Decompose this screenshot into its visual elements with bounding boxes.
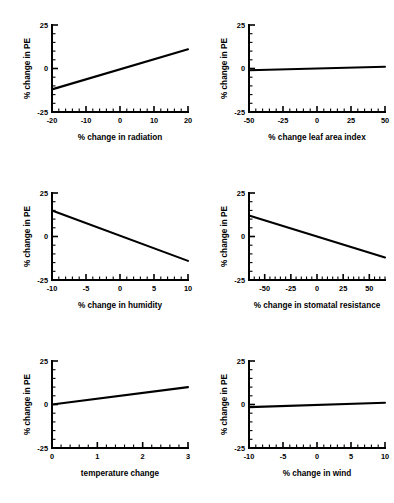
- y-tick-label: 25: [40, 189, 48, 198]
- y-axis-title: % change in PE: [220, 205, 229, 267]
- x-tick-label: 0: [118, 116, 122, 125]
- y-axis-title: % change in PE: [23, 37, 32, 99]
- y-tick-label: 0: [241, 400, 245, 409]
- x-tick-label: -5: [280, 452, 287, 461]
- x-tick-label: 0: [118, 284, 122, 293]
- y-tick-label: 0: [241, 232, 245, 241]
- x-tick-label: 5: [152, 284, 156, 293]
- chart-panel: -20-1001020-25025% change in radiation% …: [0, 0, 197, 168]
- x-tick-label: 0: [315, 116, 319, 125]
- data-series-line: [249, 67, 385, 70]
- sensitivity-figure: -20-1001020-25025% change in radiation% …: [0, 0, 394, 503]
- chart-panel: 0123-25025temperature change% change in …: [0, 336, 197, 503]
- x-tick-label: 5: [349, 452, 353, 461]
- y-tick-label: -25: [37, 108, 48, 117]
- chart-panel: -10-50510-25025% change in wind% change …: [197, 336, 394, 503]
- chart-panel: -50-2502550-25025% change leaf area inde…: [197, 0, 394, 168]
- y-tick-label: -25: [37, 444, 48, 453]
- y-tick-label: 0: [241, 64, 245, 73]
- x-tick-label: 0: [315, 284, 319, 293]
- y-tick-label: 25: [40, 21, 48, 30]
- x-tick-label: -10: [81, 116, 92, 125]
- y-tick-label: 25: [237, 21, 245, 30]
- data-series-line: [249, 216, 385, 258]
- x-tick-label: -5: [83, 284, 90, 293]
- x-axis-title: temperature change: [81, 469, 160, 478]
- y-tick-label: -25: [37, 276, 48, 285]
- x-tick-label: 25: [347, 116, 355, 125]
- axis-spine: [52, 361, 188, 448]
- y-tick-label: -25: [234, 276, 245, 285]
- x-tick-label: -10: [244, 452, 255, 461]
- chart-panel: -50-2502550-25025% change in stomatal re…: [197, 168, 394, 336]
- x-tick-label: -50: [244, 116, 255, 125]
- x-axis-title: % change leaf area index: [268, 133, 366, 142]
- x-tick-label: 0: [50, 452, 54, 461]
- y-tick-label: -25: [234, 108, 245, 117]
- x-tick-label: 50: [381, 116, 389, 125]
- y-axis-title: % change in PE: [23, 205, 32, 267]
- y-tick-label: 25: [237, 357, 245, 366]
- x-tick-label: 0: [315, 452, 319, 461]
- x-tick-label: -10: [47, 284, 58, 293]
- y-tick-label: 25: [237, 189, 245, 198]
- y-tick-label: 0: [44, 400, 48, 409]
- y-axis-title: % change in PE: [23, 373, 32, 435]
- x-tick-label: 3: [186, 452, 190, 461]
- x-tick-label: 10: [381, 452, 389, 461]
- chart-panel: -10-50510-25025% change in humidity% cha…: [0, 168, 197, 336]
- x-tick-label: 2: [141, 452, 145, 461]
- x-tick-label: -50: [259, 284, 270, 293]
- x-tick-label: 25: [339, 284, 347, 293]
- x-axis-title: % change in radiation: [78, 133, 163, 142]
- x-tick-label: 20: [184, 116, 192, 125]
- x-tick-label: 50: [365, 284, 373, 293]
- y-axis-title: % change in PE: [220, 37, 229, 99]
- x-tick-label: 10: [184, 284, 192, 293]
- x-tick-label: 1: [95, 452, 99, 461]
- y-tick-label: 0: [44, 64, 48, 73]
- y-tick-label: -25: [234, 444, 245, 453]
- data-series-line: [249, 403, 385, 407]
- x-axis-title: % change in wind: [283, 469, 352, 478]
- x-tick-label: -25: [286, 284, 297, 293]
- data-series-line: [52, 49, 188, 89]
- x-axis-title: % change in stomatal resistance: [254, 301, 381, 310]
- x-tick-label: -25: [278, 116, 289, 125]
- y-tick-label: 0: [44, 232, 48, 241]
- y-tick-label: 25: [40, 357, 48, 366]
- y-axis-title: % change in PE: [220, 373, 229, 435]
- data-series-line: [52, 210, 188, 260]
- x-tick-label: 10: [150, 116, 158, 125]
- x-axis-title: % change in humidity: [78, 301, 163, 310]
- x-tick-label: -20: [47, 116, 58, 125]
- data-series-line: [52, 387, 188, 404]
